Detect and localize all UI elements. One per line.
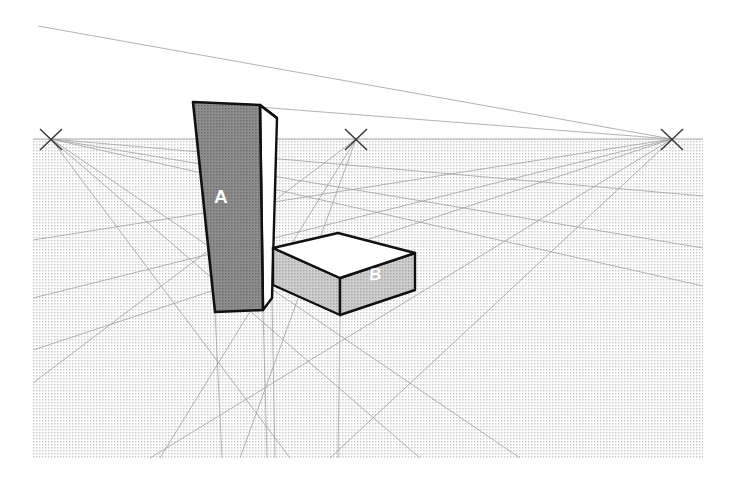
rays-above-horizon — [38, 26, 672, 139]
construction-ray — [38, 26, 672, 139]
perspective-drawing-canvas: A B — [0, 0, 734, 480]
perspective-scene — [0, 0, 734, 480]
